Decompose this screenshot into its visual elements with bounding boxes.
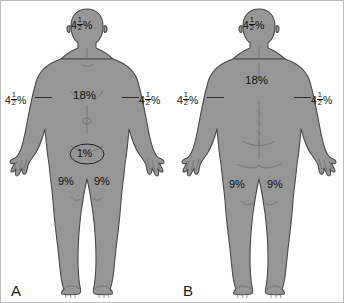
label-arm-left-percentage: 412%: [5, 92, 26, 107]
label-leg-left-percentage: 9%: [229, 179, 245, 190]
body-posterior-illustration: [173, 1, 344, 303]
label-trunk-percentage: 18%: [245, 75, 268, 87]
leader-line-arm-left: [207, 97, 224, 98]
label-genitalia-percentage: 1%: [77, 148, 92, 159]
panel-anterior: 412% 412% 412% 18% 1% 9% 9% A: [1, 1, 173, 303]
label-arm-left-percentage: 412%: [177, 92, 198, 107]
label-leg-right-percentage: 9%: [267, 179, 283, 190]
ear-right-shape: [276, 26, 279, 33]
panel-letter-a: A: [11, 282, 22, 299]
ear-left-shape: [239, 26, 242, 33]
label-leg-left-percentage: 9%: [58, 176, 74, 187]
label-arm-right-percentage: 412%: [311, 92, 332, 107]
ear-left-shape: [67, 26, 70, 33]
leader-line-arm-left: [35, 97, 52, 98]
panel-letter-b: B: [183, 282, 194, 299]
ear-right-shape: [104, 26, 107, 33]
leader-line-arm-right: [294, 97, 311, 98]
label-head-percentage: 412%: [71, 17, 92, 32]
rule-of-nines-figure: 412% 412% 412% 18% 1% 9% 9% A: [0, 0, 344, 303]
leader-line-arm-right: [122, 97, 139, 98]
label-head-percentage: 412%: [243, 17, 264, 32]
label-leg-right-percentage: 9%: [94, 176, 110, 187]
label-arm-right-percentage: 412%: [139, 92, 160, 107]
panel-posterior: 412% 412% 412% 18% 9% 9% B: [173, 1, 344, 303]
label-trunk-percentage: 18%: [73, 90, 96, 102]
